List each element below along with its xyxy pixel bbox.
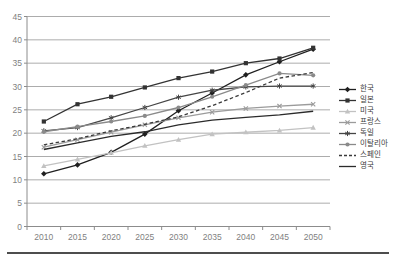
legend-label: 이탈리아 xyxy=(360,138,388,149)
y-tick-label: 5 xyxy=(17,198,22,208)
x-tick-label: 2030 xyxy=(169,232,188,242)
y-tick-label: 35 xyxy=(13,58,23,68)
x-tick-label: 2020 xyxy=(102,232,121,242)
legend-label: 독일 xyxy=(360,127,374,138)
legend-label: 스페인 xyxy=(360,149,381,160)
legend-swatch-icon xyxy=(339,157,356,175)
legend-item: 영국 xyxy=(339,160,388,171)
x-tick-label: 2035 xyxy=(203,232,222,242)
y-tick-label: 20 xyxy=(13,128,23,138)
x-tick-label: 2040 xyxy=(236,232,255,242)
legend-label: 영국 xyxy=(360,160,374,171)
y-tick-label: 0 xyxy=(17,222,22,232)
y-tick-label: 30 xyxy=(13,82,23,92)
x-tick-label: 2025 xyxy=(135,232,154,242)
legend-label: 한국 xyxy=(360,83,374,94)
x-tick-label: 2015 xyxy=(68,232,87,242)
y-tick-label: 40 xyxy=(13,35,23,45)
plot-area: 4540353025201510502010201520202025203020… xyxy=(0,0,397,261)
y-tick-label: 25 xyxy=(13,105,23,115)
footer-rule xyxy=(7,252,389,254)
y-tick-label: 15 xyxy=(13,152,23,162)
y-tick-label: 45 xyxy=(13,12,23,22)
legend-label: 프랑스 xyxy=(360,116,381,127)
legend: 한국일본미국프랑스독일이탈리아스페인영국 xyxy=(339,83,388,171)
legend-label: 미국 xyxy=(360,105,374,116)
x-tick-label: 2045 xyxy=(270,232,289,242)
legend-label: 일본 xyxy=(360,94,374,105)
x-tick-label: 2050 xyxy=(304,232,323,242)
line-chart: 4540353025201510502010201520202025203020… xyxy=(0,0,397,261)
y-tick-label: 10 xyxy=(13,175,23,185)
x-tick-label: 2010 xyxy=(34,232,53,242)
